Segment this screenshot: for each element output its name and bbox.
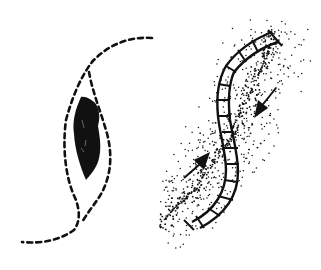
wound-healing-illustration xyxy=(0,0,321,270)
dark-wound-fill xyxy=(73,97,100,180)
s-curve-suture-line-outer xyxy=(200,42,278,228)
open-wound-panel xyxy=(22,38,152,243)
sutured-wound-panel xyxy=(159,19,311,248)
